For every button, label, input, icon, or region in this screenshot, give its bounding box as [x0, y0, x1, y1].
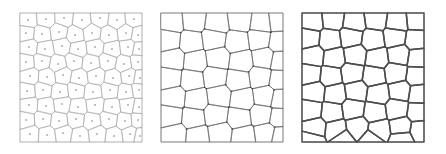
seed-point	[81, 19, 82, 20]
vertex-point	[268, 46, 270, 48]
seed-point	[111, 48, 112, 49]
seed-point	[108, 34, 109, 35]
vertex-point	[271, 107, 273, 109]
vertex-point	[205, 124, 207, 126]
vertex-point	[204, 28, 206, 30]
vertex-point	[249, 48, 251, 50]
vertex-point	[181, 69, 183, 71]
seed-point	[90, 62, 91, 63]
vertex-point	[180, 32, 182, 34]
seed-point	[77, 48, 78, 49]
voronoi-panel-2	[161, 13, 283, 142]
seed-point	[45, 18, 46, 19]
vertex-point	[202, 71, 204, 73]
seed-point	[25, 119, 26, 120]
seed-point	[25, 61, 26, 62]
seed-point	[77, 106, 78, 107]
seed-point	[107, 60, 108, 61]
seed-point	[96, 133, 97, 134]
vertex-point	[180, 85, 182, 87]
seed-point	[59, 91, 60, 92]
vertex-point	[229, 29, 231, 31]
seed-point	[92, 91, 93, 92]
seed-point	[26, 90, 27, 91]
seed-point	[29, 133, 30, 134]
seed-point	[129, 133, 130, 134]
vertex-point	[252, 88, 254, 90]
seed-point	[58, 31, 59, 32]
seed-point	[78, 77, 79, 78]
seed-point	[75, 118, 76, 119]
seed-point	[79, 135, 80, 136]
vertex-point	[253, 65, 255, 67]
seed-point	[113, 135, 114, 136]
seed-point	[46, 76, 47, 77]
seed-point	[61, 45, 62, 46]
seed-point	[138, 48, 139, 49]
seed-point	[74, 34, 75, 35]
vertex-point	[271, 69, 273, 71]
vertex-point	[251, 50, 253, 52]
vertex-point	[207, 126, 209, 128]
vertex-point	[226, 121, 228, 123]
seed-point	[46, 134, 47, 135]
seed-point	[108, 118, 109, 119]
seed-point	[111, 106, 112, 107]
seed-point	[127, 46, 128, 47]
seed-point	[109, 89, 110, 90]
seed-point	[28, 104, 29, 105]
seed-point	[125, 91, 126, 92]
vertex-point	[182, 107, 184, 109]
seed-point	[45, 105, 46, 106]
seed-point	[29, 75, 30, 76]
seed-point	[57, 63, 58, 64]
seed-point	[73, 60, 74, 61]
vertex-point	[230, 90, 232, 92]
vertex-point	[183, 29, 185, 31]
panel-1-canvas	[20, 13, 142, 142]
vertex-point	[269, 68, 271, 70]
seed-point	[139, 77, 140, 78]
seed-point	[62, 74, 63, 75]
vertex-point	[225, 84, 227, 86]
vertex-point	[179, 47, 181, 49]
seed-point	[128, 75, 129, 76]
vertex-point	[228, 106, 230, 108]
voronoi-panel-3	[302, 13, 424, 142]
vertex-point	[186, 128, 188, 130]
seed-point	[63, 17, 64, 18]
seed-point	[124, 120, 125, 121]
seed-point	[58, 120, 59, 121]
seed-point	[27, 19, 28, 20]
seed-point	[137, 61, 138, 62]
seed-point	[62, 132, 63, 133]
vertex-point	[253, 126, 255, 128]
vertex-point	[227, 68, 229, 70]
vertex-point	[181, 122, 183, 124]
vertex-point	[231, 128, 233, 130]
vertex-point	[204, 86, 206, 88]
seed-point	[138, 106, 139, 107]
vertex-point	[208, 103, 210, 105]
vertex-point	[250, 86, 252, 88]
vertex-point	[203, 109, 205, 111]
vertex-point	[249, 109, 251, 111]
vertex-point	[182, 68, 184, 70]
seed-point	[42, 89, 43, 90]
vertex-point	[273, 89, 275, 91]
vertex-point	[270, 31, 272, 33]
seed-point	[112, 77, 113, 78]
figure-root	[0, 0, 446, 154]
vertex-point	[229, 52, 231, 54]
vertex-point	[207, 65, 209, 67]
vertex-point	[254, 103, 256, 105]
seed-point	[127, 104, 128, 105]
seed-point	[91, 32, 92, 33]
seed-point	[99, 17, 100, 18]
vertex-point	[247, 31, 249, 33]
seed-point	[25, 32, 26, 33]
seed-point	[137, 34, 138, 35]
seed-point	[139, 135, 140, 136]
panel-2-canvas	[161, 13, 283, 142]
vertex-point	[274, 126, 276, 128]
